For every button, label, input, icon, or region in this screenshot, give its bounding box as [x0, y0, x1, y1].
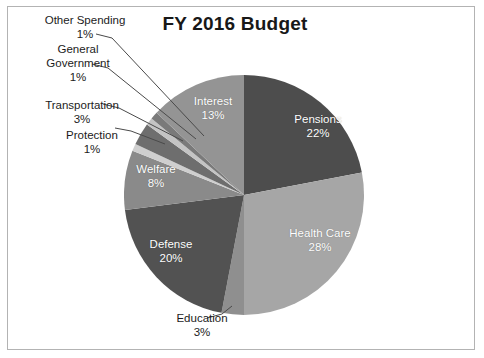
- slice-label-health-care-value: 28%: [270, 241, 370, 255]
- outside-label-education-value: 3%: [140, 325, 264, 339]
- slice-label-welfare-value: 8%: [120, 177, 192, 191]
- outside-label-other-spending: Other Spending 1%: [20, 13, 150, 41]
- outside-label-education: Education 3%: [140, 311, 264, 339]
- slice-label-pensions-value: 22%: [272, 127, 364, 141]
- outside-label-other-spending-name: Other Spending: [45, 14, 126, 26]
- slice-label-pensions: Pensions 22%: [272, 113, 364, 140]
- slice-label-pensions-name: Pensions: [294, 113, 341, 125]
- slice-label-interest-value: 13%: [177, 109, 249, 123]
- outside-label-general-government-value: 1%: [12, 70, 144, 84]
- slice-label-defense-value: 20%: [132, 252, 210, 266]
- outside-label-other-spending-value: 1%: [20, 27, 150, 41]
- outside-label-education-name: Education: [176, 312, 227, 324]
- outside-label-transportation-value: 3%: [14, 112, 150, 126]
- outside-label-transportation-name: Transportation: [45, 99, 119, 111]
- slice-label-health-care: Health Care 28%: [270, 227, 370, 254]
- slice-label-welfare: Welfare 8%: [120, 163, 192, 190]
- slice-label-welfare-name: Welfare: [136, 163, 175, 175]
- outside-label-protection-name: Protection: [66, 129, 118, 141]
- outside-label-protection: Protection 1%: [34, 128, 150, 156]
- slice-label-defense: Defense 20%: [132, 238, 210, 265]
- outside-label-general-government-name1: General: [58, 43, 99, 55]
- chart-title: FY 2016 Budget: [130, 13, 340, 35]
- slice-label-health-care-name: Health Care: [289, 227, 350, 239]
- slice-label-interest-name: Interest: [194, 95, 232, 107]
- outside-label-general-government: General Government 1%: [12, 42, 144, 84]
- chart-screenshot: FY 2016 Budget Pensions 22% Health Care …: [0, 0, 484, 358]
- slice-label-interest: Interest 13%: [177, 95, 249, 122]
- slice-label-defense-name: Defense: [150, 238, 193, 250]
- outside-label-transportation: Transportation 3%: [14, 98, 150, 126]
- outside-label-protection-value: 1%: [34, 142, 150, 156]
- outside-label-general-government-name2: Government: [12, 56, 144, 70]
